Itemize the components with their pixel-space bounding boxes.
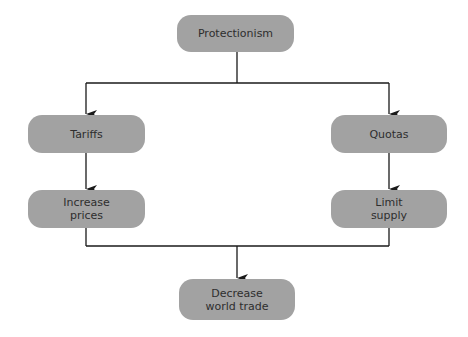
node-increase-prices: Increase prices — [28, 190, 145, 228]
node-tariffs: Tariffs — [28, 115, 145, 153]
node-quotas: Quotas — [331, 115, 447, 153]
node-decrease-world-trade: Decrease world trade — [179, 279, 295, 320]
flowchart-canvas: Protectionism Tariffs Quotas Increase pr… — [0, 0, 468, 337]
node-limit-supply: Limit supply — [331, 190, 447, 228]
node-protectionism: Protectionism — [177, 15, 294, 52]
